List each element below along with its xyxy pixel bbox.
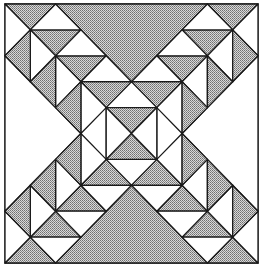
quilt-diagram	[0, 0, 259, 268]
triangles	[5, 4, 258, 263]
